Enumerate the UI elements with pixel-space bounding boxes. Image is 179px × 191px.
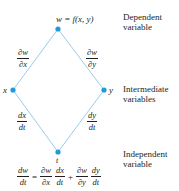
frac-den: dt	[89, 122, 96, 132]
frac-num: ∂w	[86, 48, 98, 59]
node-label-y: y	[109, 85, 113, 95]
label-line: Intermediate	[123, 84, 168, 94]
frac-dw-dx: ∂w ∂x	[40, 166, 52, 187]
edge-label-dw-dy: ∂w ∂y	[86, 48, 98, 69]
label-intermediate-variables: Intermediate variables	[123, 84, 168, 104]
node-label-w: w = f(x, y)	[56, 14, 94, 24]
frac-num: dx	[17, 111, 27, 122]
chain-rule-equation: dw dt = ∂w ∂x dx dt + ∂w ∂y dy dt	[17, 166, 101, 187]
frac-den: ∂y	[88, 59, 96, 69]
frac-den: ∂x	[19, 59, 27, 69]
frac-num: dy	[91, 166, 101, 177]
edge-label-dw-dx: ∂w ∂x	[17, 48, 29, 69]
frac-den: ∂y	[78, 177, 86, 187]
frac-den: dt	[93, 177, 100, 187]
frac-num: dy	[87, 111, 97, 122]
label-independent-variable: Independent variable	[123, 149, 167, 169]
label-line: variables	[123, 94, 168, 104]
node-x	[10, 87, 15, 92]
node-label-t: t	[56, 156, 58, 165]
frac-dy-dt: dy dt	[91, 166, 101, 187]
frac-num: dx	[55, 166, 65, 177]
edge-y-t	[58, 90, 104, 152]
frac-dx-dt: dx dt	[55, 166, 65, 187]
edge-label-dy-dt: dy dt	[87, 111, 97, 132]
frac-num: ∂w	[40, 166, 52, 177]
plus-sign: +	[68, 172, 73, 182]
frac-num: ∂w	[76, 166, 88, 177]
frac-num: dw	[17, 166, 29, 177]
frac-den: dt	[20, 177, 27, 187]
node-t	[55, 149, 60, 154]
frac-dw-dt: dw dt	[17, 166, 29, 187]
frac-den: dt	[57, 177, 64, 187]
frac-den: ∂x	[42, 177, 50, 187]
label-line: variable	[123, 159, 167, 169]
node-label-x: x	[3, 85, 7, 95]
equals-sign: =	[32, 172, 37, 182]
frac-dw-dy: ∂w ∂y	[76, 166, 88, 187]
label-dependent-variable: Dependent variable	[123, 12, 162, 32]
node-w	[55, 26, 60, 31]
node-y	[101, 87, 106, 92]
label-line: Independent	[123, 149, 167, 159]
frac-num: ∂w	[17, 48, 29, 59]
label-line: variable	[123, 22, 162, 32]
label-line: Dependent	[123, 12, 162, 22]
edge-label-dx-dt: dx dt	[17, 111, 27, 132]
frac-den: dt	[19, 122, 26, 132]
